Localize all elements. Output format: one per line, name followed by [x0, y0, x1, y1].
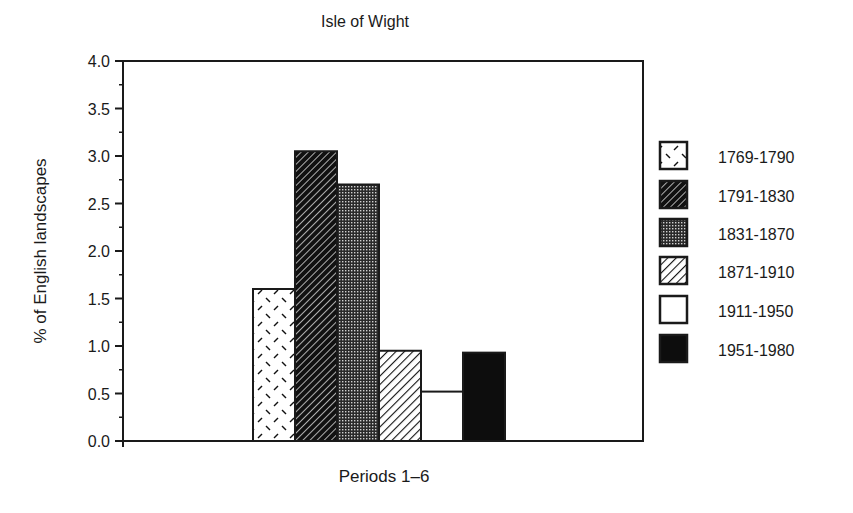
legend-swatch-1791-1830 [660, 181, 687, 208]
legend-swatch-1769-1790 [660, 142, 687, 169]
y-tick-label: 4.0 [88, 53, 110, 70]
legend-label: 1791-1830 [718, 188, 795, 205]
legend-swatch-1911-1950 [660, 296, 687, 323]
y-tick-label: 0.5 [88, 386, 110, 403]
y-tick-label: 0.0 [88, 433, 110, 450]
y-tick-label: 1.0 [88, 338, 110, 355]
legend-label: 1871-1910 [718, 264, 795, 281]
legend-label: 1951-1980 [718, 342, 795, 359]
bar-1769-1790 [253, 289, 295, 441]
bar-1871-1910 [379, 351, 421, 441]
legend-label: 1911-1950 [718, 303, 793, 320]
bar-chart: Isle of Wight 0.00.51.01.52.02.53.03.54.… [0, 0, 853, 513]
y-tick-label: 3.5 [88, 101, 110, 118]
y-axis-label: % of English landscapes [31, 158, 50, 343]
bars [253, 151, 505, 441]
legend-swatch-1831-1870 [660, 219, 687, 246]
y-tick-label: 2.0 [88, 243, 110, 260]
legend-label: 1831-1870 [718, 226, 795, 243]
legend-swatch-1951-1980 [660, 335, 687, 362]
y-tick-label: 3.0 [88, 148, 110, 165]
legend-swatch-1871-1910 [660, 257, 687, 284]
legend: 1769-17901791-18301831-18701871-19101911… [660, 142, 795, 362]
bar-1951-1980 [463, 353, 505, 441]
y-tick-label: 2.5 [88, 196, 110, 213]
chart-title: Isle of Wight [321, 13, 410, 30]
x-axis-label: Periods 1–6 [339, 467, 430, 486]
bar-1911-1950 [421, 392, 463, 441]
bar-1791-1830 [295, 151, 337, 441]
bar-1831-1870 [337, 185, 379, 442]
legend-label: 1769-1790 [718, 149, 795, 166]
y-axis: 0.00.51.01.52.02.53.03.54.0 [88, 53, 123, 450]
y-tick-label: 1.5 [88, 291, 110, 308]
